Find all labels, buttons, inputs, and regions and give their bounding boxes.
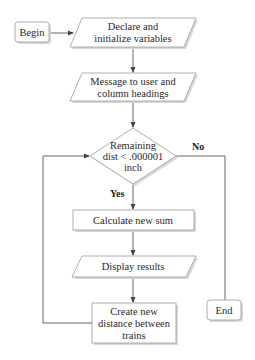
create-line-2: distance between xyxy=(98,318,171,329)
node-end: End xyxy=(207,300,243,322)
create-line-1: Create new xyxy=(110,306,158,317)
decision-line-3: inch xyxy=(124,162,143,173)
node-message: Message to user and column headings xyxy=(70,73,198,103)
end-label: End xyxy=(216,305,234,316)
declare-line-2: initialize variables xyxy=(94,33,171,44)
display-label: Display results xyxy=(102,261,165,272)
node-display: Display results xyxy=(72,256,198,279)
node-calculate: Calculate new sum xyxy=(73,210,196,232)
node-declare: Declare and initialize variables xyxy=(70,18,198,49)
node-begin: Begin xyxy=(15,22,51,44)
edge-create-decision-loop xyxy=(43,156,92,323)
node-decision: Remaining dist < .000001 inch xyxy=(90,128,178,186)
decision-line-2: dist < .000001 xyxy=(103,151,163,162)
decision-line-1: Remaining xyxy=(110,140,157,151)
declare-line-1: Declare and xyxy=(108,21,159,32)
message-line-2: column headings xyxy=(97,88,168,99)
create-line-3: trains xyxy=(122,330,145,341)
yes-label: Yes xyxy=(110,188,125,199)
message-line-1: Message to user and xyxy=(90,76,176,87)
no-label: No xyxy=(192,141,204,152)
begin-label: Begin xyxy=(19,27,45,38)
calculate-label: Calculate new sum xyxy=(93,215,173,226)
node-create: Create new distance between trains xyxy=(92,303,178,345)
flowchart: Begin Declare and initialize variables M… xyxy=(0,0,255,360)
